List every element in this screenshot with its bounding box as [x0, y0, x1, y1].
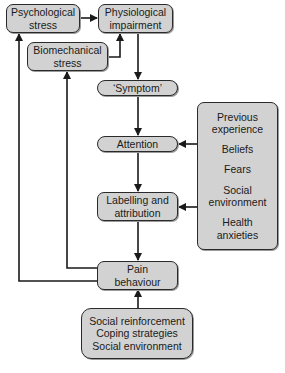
- factor-text: Previous: [212, 111, 263, 124]
- node-text: behaviour: [114, 276, 160, 289]
- node-text: Psychological: [11, 6, 75, 19]
- arrow-biomech-to-physio: [108, 34, 120, 57]
- factor-text: Health: [217, 216, 258, 229]
- node-physiological-impairment: Physiological impairment: [98, 4, 173, 33]
- node-biomechanical-stress: Biomechanical stress: [27, 42, 108, 71]
- node-text: Labelling and: [106, 194, 168, 207]
- factor-text: experience: [212, 123, 263, 136]
- factor-fears: Fears: [224, 163, 251, 176]
- node-pain-behaviour: Pain behaviour: [97, 261, 178, 290]
- factor-text: Fears: [224, 163, 251, 176]
- arrow-pain-to-psych: [19, 34, 97, 281]
- node-text: stress: [29, 19, 57, 32]
- node-text: stress: [53, 57, 81, 70]
- arrow-pain-to-biomech: [67, 72, 97, 268]
- node-attention: Attention: [97, 136, 178, 152]
- factor-text: anxieties: [217, 229, 258, 242]
- factor-text: environment: [209, 196, 267, 209]
- factor-text: Social: [209, 184, 267, 197]
- node-text: Social reinforcement: [89, 315, 185, 328]
- node-cognitive-factors: Previous experience Beliefs Fears Social…: [197, 102, 278, 250]
- node-psychological-stress: Psychological stress: [6, 4, 80, 33]
- node-text: ‘Symptom’: [113, 82, 162, 95]
- node-text: Coping strategies: [96, 327, 178, 340]
- node-text: attribution: [114, 207, 160, 220]
- node-text: Attention: [117, 138, 158, 151]
- node-text: Pain: [127, 263, 148, 276]
- factor-social-environment: Social environment: [209, 184, 267, 209]
- node-text: Physiological: [105, 6, 166, 19]
- node-text: Social environment: [92, 340, 181, 353]
- node-text: Biomechanical: [33, 44, 101, 57]
- factor-text: Beliefs: [222, 143, 254, 156]
- factor-previous-experience: Previous experience: [212, 111, 263, 136]
- factor-beliefs: Beliefs: [222, 143, 254, 156]
- node-symptom: ‘Symptom’: [97, 80, 178, 96]
- node-labelling-attribution: Labelling and attribution: [97, 192, 178, 221]
- node-text: impairment: [110, 19, 162, 32]
- node-social-factors: Social reinforcement Coping strategies S…: [81, 308, 193, 359]
- factor-health-anxieties: Health anxieties: [217, 216, 258, 241]
